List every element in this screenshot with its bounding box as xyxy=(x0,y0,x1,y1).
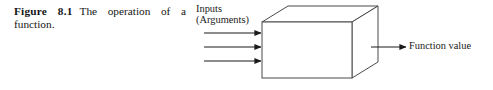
diagram-graphics xyxy=(0,0,493,90)
box-front-face xyxy=(262,22,352,78)
figure-container: Figure 8.1The operation of a function. I… xyxy=(0,0,493,90)
